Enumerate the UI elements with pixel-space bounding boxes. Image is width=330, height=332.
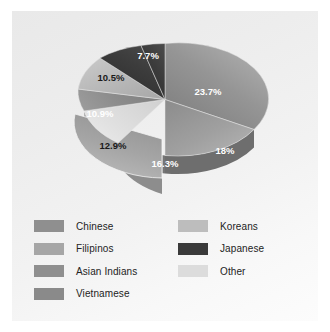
legend-item-chinese[interactable]: Chinese: [34, 215, 137, 238]
legend-label-japanese: Japanese: [220, 243, 264, 254]
slice-label-other: 12.9%: [100, 140, 127, 151]
legend-item-koreans[interactable]: Koreans: [178, 215, 264, 238]
legend-item-japanese[interactable]: Japanese: [178, 238, 264, 261]
legend-swatch-chinese: [34, 220, 64, 232]
figure-panel: 23.7% 18% 16.3% 12.9% 10.9% 10.5% 7.7% C…: [12, 11, 318, 321]
slice-label-vietnamese: 10.9%: [87, 108, 114, 119]
pie-chart-area: 23.7% 18% 16.3% 12.9% 10.9% 10.5% 7.7%: [12, 11, 318, 207]
legend-swatch-vietnamese: [34, 288, 64, 300]
legend-item-vietnamese[interactable]: Vietnamese: [34, 283, 137, 306]
legend-item-other[interactable]: Other: [178, 260, 264, 283]
legend-swatch-japanese: [178, 243, 208, 255]
legend-swatch-other: [178, 265, 208, 277]
legend-item-asian-indians[interactable]: Asian Indians: [34, 260, 137, 283]
slice-label-japanese: 16.3%: [152, 158, 179, 169]
legend-label-filipinos: Filipinos: [76, 243, 114, 254]
chart-legend: Chinese Filipinos Asian Indians Vietname…: [12, 207, 318, 321]
legend-label-koreans: Koreans: [220, 221, 258, 232]
legend-swatch-koreans: [178, 220, 208, 232]
slice-label-filipinos: 7.7%: [137, 50, 159, 61]
legend-item-filipinos[interactable]: Filipinos: [34, 238, 137, 261]
slice-label-asian-indians: 10.5%: [98, 72, 125, 83]
slice-label-koreans: 18%: [215, 145, 235, 156]
legend-label-vietnamese: Vietnamese: [76, 288, 130, 299]
legend-label-asian-indians: Asian Indians: [76, 266, 137, 277]
legend-column-left: Chinese Filipinos Asian Indians Vietname…: [34, 215, 137, 305]
slice-label-chinese: 23.7%: [195, 86, 222, 97]
legend-label-other: Other: [220, 266, 246, 277]
legend-swatch-filipinos: [34, 243, 64, 255]
legend-column-right: Koreans Japanese Other: [178, 215, 264, 283]
pie-chart-svg[interactable]: 23.7% 18% 16.3% 12.9% 10.9% 10.5% 7.7%: [12, 11, 318, 207]
legend-label-chinese: Chinese: [76, 221, 113, 232]
legend-swatch-asian-indians: [34, 265, 64, 277]
